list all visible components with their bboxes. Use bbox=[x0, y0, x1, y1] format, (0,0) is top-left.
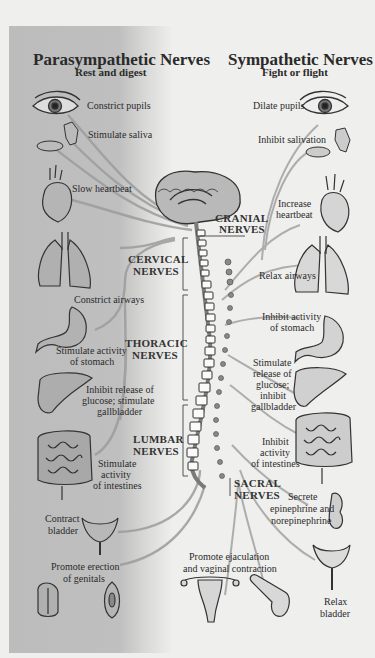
symp-heart-label-1: Increase bbox=[278, 198, 311, 209]
symp-stomach-label-2: of stomach bbox=[270, 322, 314, 333]
bladder-left-icon bbox=[82, 518, 118, 555]
para-stomach-label-1: Stimulate activity bbox=[56, 345, 127, 356]
para-bladder-label-2: bladder bbox=[48, 525, 78, 536]
genitals-male-left-icon bbox=[38, 583, 58, 617]
para-lungs-label: Constrict airways bbox=[74, 294, 144, 305]
symp-liver-label-3: glucose; bbox=[256, 379, 289, 390]
intestines-right-icon bbox=[296, 413, 352, 484]
bladder-right-icon bbox=[313, 545, 350, 590]
sympathetic-subtitle: Fight or flight bbox=[262, 66, 328, 78]
para-eye-label: Constrict pupils bbox=[87, 100, 151, 111]
para-genitals-label-2: of genitals bbox=[63, 573, 105, 584]
thoracic-nerves-label-1: THORACIC bbox=[125, 337, 188, 349]
lungs-right-icon bbox=[295, 236, 349, 294]
symp-intestines-label-3: of intestines bbox=[251, 458, 300, 469]
heart-right-icon bbox=[321, 174, 349, 232]
symp-intestines-label-1: Inhibit bbox=[262, 436, 289, 447]
parasympathetic-subtitle: Rest and digest bbox=[75, 66, 147, 78]
symp-intestines-label-2: activity bbox=[260, 447, 290, 458]
symp-genitals-label-1: Promote ejaculation bbox=[189, 551, 269, 562]
para-liver-label-2: glucose; stimulate bbox=[82, 395, 155, 406]
heart-left-icon bbox=[43, 165, 72, 222]
symp-bladder-label-1: Relax bbox=[324, 596, 347, 607]
symp-bladder-label-2: bladder bbox=[320, 608, 350, 619]
lumbar-nerves-label-1: LUMBAR bbox=[133, 433, 184, 445]
uterus-icon bbox=[181, 577, 239, 622]
liver-right-icon bbox=[294, 368, 346, 407]
symp-lungs-label: Relax airways bbox=[259, 270, 316, 281]
symp-liver-label-5: gallbladder bbox=[251, 401, 296, 412]
liver-left-icon bbox=[38, 373, 92, 413]
sacral-nerves-label-1: SACRAL bbox=[234, 477, 281, 489]
genitals-female-left-icon bbox=[105, 582, 120, 618]
symp-genitals-label-2: and vaginal contraction bbox=[183, 563, 277, 574]
thoracic-nerves-label-2: NERVES bbox=[132, 349, 178, 361]
symp-adrenal-label-1: Secrete bbox=[288, 491, 317, 502]
para-intestines-label-3: of intestines bbox=[93, 480, 142, 491]
eye-right-icon bbox=[300, 91, 348, 113]
symp-liver-label-1: Stimulate bbox=[253, 357, 291, 368]
cranial-nerves-label-2: NERVES bbox=[219, 223, 265, 235]
para-saliva-label: Stimulate saliva bbox=[88, 129, 152, 140]
symp-stomach-label-1: Inhibit activity bbox=[262, 311, 321, 322]
symp-adrenal-label-2: epinephrine and bbox=[270, 503, 334, 514]
symp-saliva-label: Inhibit salivation bbox=[258, 134, 326, 145]
symp-heart-label-2: heartbeat bbox=[276, 209, 313, 220]
eye-left-icon bbox=[33, 91, 80, 113]
intestines-left-icon bbox=[38, 431, 92, 500]
para-genitals-label-1: Promote erection bbox=[51, 561, 120, 572]
illustration-layer bbox=[0, 0, 375, 658]
salivary-gland-left-icon bbox=[37, 122, 78, 151]
symp-liver-label-2: release of bbox=[253, 368, 292, 379]
symp-liver-label-4: inhibit bbox=[260, 390, 286, 401]
sacral-nerves-label-2: NERVES bbox=[234, 489, 280, 501]
para-stomach-label-2: of stomach bbox=[70, 356, 114, 367]
lumbar-nerves-label-2: NERVES bbox=[133, 445, 179, 457]
para-heart-label: Slow heartbeat bbox=[72, 183, 132, 194]
para-intestines-label-2: activity bbox=[101, 469, 131, 480]
cervical-nerves-label-2: NERVES bbox=[133, 265, 179, 277]
lungs-left-icon bbox=[39, 232, 91, 288]
para-intestines-label-1: Stimulate bbox=[98, 458, 136, 469]
genitals-male-right-icon bbox=[250, 575, 289, 617]
para-liver-label-3: gallbladder bbox=[97, 406, 142, 417]
cervical-nerves-label-1: CERVICAL bbox=[128, 253, 189, 265]
para-bladder-label-1: Contract bbox=[45, 513, 79, 524]
symp-adrenal-label-3: norepinephrine bbox=[271, 515, 332, 526]
symp-eye-label: Dilate pupils bbox=[253, 100, 304, 111]
para-liver-label-1: Inhibit release of bbox=[86, 384, 154, 395]
